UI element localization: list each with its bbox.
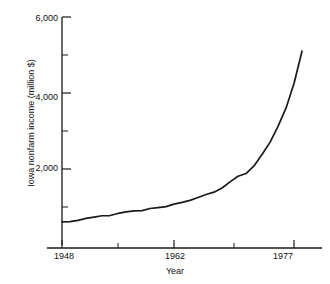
- y-axis-title: Iowa nonfarm income (million $): [26, 28, 36, 218]
- chart-canvas: [0, 0, 330, 284]
- x-tick-label-1962: 1962: [155, 251, 195, 261]
- y-axis-ticks: [62, 17, 71, 207]
- x-axis-ticks: [62, 240, 294, 248]
- data-series-line: [62, 51, 302, 222]
- page-artifact: [18, 276, 138, 280]
- y-tick-label-2000: 2,000: [22, 163, 58, 173]
- x-axis-title: Year: [120, 266, 230, 276]
- chart-figure: Iowa nonfarm income (million $) 6,000 4,…: [0, 0, 330, 284]
- x-tick-label-1948: 1948: [44, 251, 84, 261]
- y-tick-label-4000: 4,000: [22, 92, 58, 102]
- x-tick-label-1977: 1977: [263, 251, 303, 261]
- y-tick-label-6000: 6,000: [22, 13, 58, 23]
